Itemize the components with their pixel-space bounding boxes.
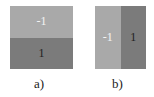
panel-a-square: -1 1	[10, 6, 73, 69]
panel-a-caption: a)	[34, 76, 44, 92]
panel-b-left-region: -1	[95, 6, 121, 69]
panel-a-top-value: -1	[37, 14, 47, 29]
panel-a-bottom-value: 1	[39, 46, 45, 61]
panel-b-left-value: -1	[103, 30, 113, 45]
panel-b-right-region: 1	[121, 6, 147, 69]
panel-a-top-region: -1	[10, 6, 73, 38]
panel-a-bottom-region: 1	[10, 38, 73, 70]
panel-b-caption: b)	[112, 76, 123, 92]
panel-b-square: -1 1	[95, 6, 146, 69]
panel-b-right-value: 1	[130, 30, 136, 45]
